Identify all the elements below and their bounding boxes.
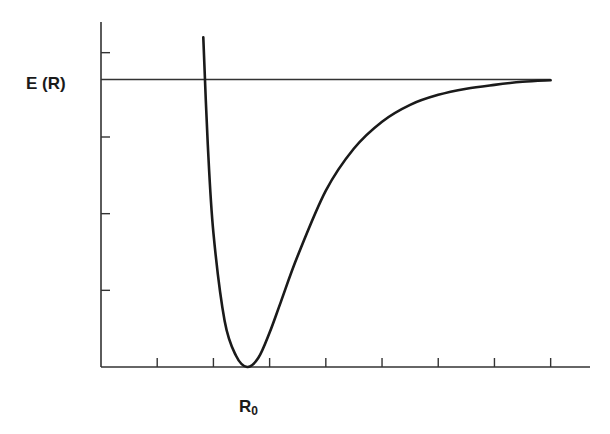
r0-subscript: 0	[251, 404, 258, 418]
ticks	[101, 53, 551, 367]
energy-curve	[203, 37, 550, 367]
r0-main: R	[239, 397, 251, 416]
r0-label: R0	[239, 397, 258, 418]
potential-energy-chart	[0, 0, 610, 434]
y-axis-label: E (R)	[26, 74, 66, 94]
potential-curve-path	[203, 37, 550, 367]
axes	[101, 22, 590, 367]
